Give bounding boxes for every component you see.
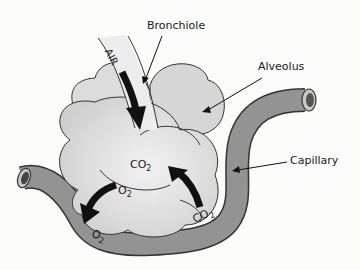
alveolus-label: Alveolus xyxy=(258,60,305,73)
bronchiole-label: Bronchiole xyxy=(147,19,205,32)
capillary-label: Capillary xyxy=(290,154,339,167)
alveolus-diagram: AIR CO2 O2 O2 CO2 Bronchiole Alveolus Ca… xyxy=(0,0,360,270)
